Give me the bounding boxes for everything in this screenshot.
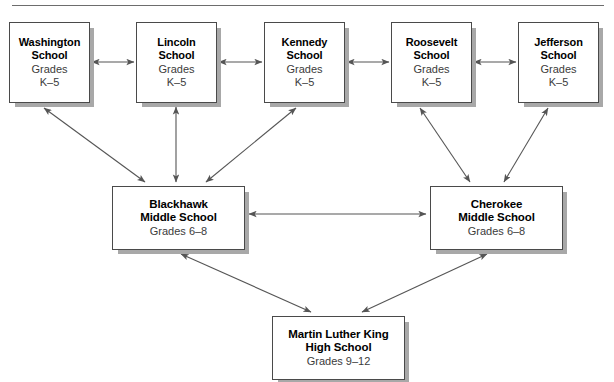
node-name-line2: School — [286, 49, 322, 63]
node-jefferson-school[interactable]: Jefferson School Grades K–5 — [518, 22, 599, 103]
node-name-line2: Middle School — [140, 211, 217, 225]
node-name-line1: Jefferson — [534, 36, 583, 50]
node-kennedy-school[interactable]: Kennedy School Grades K–5 — [264, 22, 345, 103]
node-name-line1: Cherokee — [471, 198, 523, 212]
node-martin-luther-king-high-school[interactable]: Martin Luther King High School Grades 9–… — [272, 316, 405, 380]
node-lincoln-school[interactable]: Lincoln School Grades K–5 — [136, 22, 217, 103]
node-washington-school[interactable]: Washington School Grades K–5 — [9, 22, 90, 103]
node-grades-line1: Grades — [540, 63, 576, 77]
edge-blackhawk-mlk — [181, 254, 311, 312]
node-name-line1: Washington — [19, 36, 81, 50]
node-grades-line2: K–5 — [167, 76, 187, 90]
node-name-line2: School — [413, 49, 449, 63]
node-name-line2: Middle School — [458, 211, 535, 225]
node-grades-line1: Grades — [286, 63, 322, 77]
edge-washington-blackhawk — [44, 108, 145, 182]
node-grades-line1: Grades 9–12 — [307, 355, 371, 369]
node-grades-line1: Grades 6–8 — [150, 225, 207, 239]
node-name-line1: Kennedy — [282, 36, 328, 50]
node-grades-line2: K–5 — [549, 76, 569, 90]
node-grades-line1: Grades — [31, 63, 67, 77]
node-name-line1: Lincoln — [157, 36, 195, 50]
node-name-line2: School — [540, 49, 576, 63]
edge-roosevelt-cherokee — [420, 108, 470, 182]
node-grades-line2: K–5 — [295, 76, 315, 90]
node-roosevelt-school[interactable]: Roosevelt School Grades K–5 — [391, 22, 472, 103]
node-grades-line1: Grades — [413, 63, 449, 77]
node-grades-line2: K–5 — [422, 76, 442, 90]
diagram-canvas: Washington School Grades K–5 Lincoln Sch… — [0, 0, 614, 382]
node-name-line2: High School — [306, 341, 372, 355]
node-name-line2: School — [31, 49, 67, 63]
node-grades-line2: K–5 — [40, 76, 60, 90]
edge-kennedy-blackhawk — [206, 108, 296, 182]
node-name-line2: School — [158, 49, 194, 63]
node-name-line1: Martin Luther King — [288, 328, 388, 342]
node-cherokee-middle-school[interactable]: Cherokee Middle School Grades 6–8 — [430, 186, 563, 250]
node-grades-line1: Grades 6–8 — [468, 225, 525, 239]
node-name-line1: Roosevelt — [406, 36, 458, 50]
node-grades-line1: Grades — [158, 63, 194, 77]
node-blackhawk-middle-school[interactable]: Blackhawk Middle School Grades 6–8 — [112, 186, 245, 250]
edge-cherokee-mlk — [362, 254, 487, 312]
node-name-line1: Blackhawk — [149, 198, 208, 212]
edge-jefferson-cherokee — [504, 108, 548, 182]
